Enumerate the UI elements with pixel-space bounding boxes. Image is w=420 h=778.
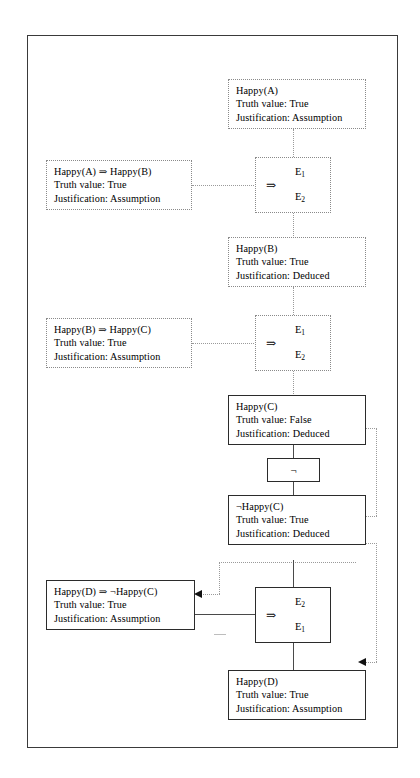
- node-implication-a-implies-b-text: Happy(A) ⇒ Happy(B) Truth value: True Ju…: [54, 165, 160, 205]
- rule-box-modus-ponens-1[interactable]: ⇒ E1 E2: [255, 157, 331, 213]
- connector-implication-bc-to-mp2: [192, 343, 256, 344]
- node-implication-b-implies-c-justification: Justification: Assumption: [54, 350, 160, 363]
- rule-box-modus-ponens-1-top-slot: E1: [256, 166, 330, 179]
- node-implication-a-implies-b-justification: Justification: Assumption: [54, 192, 160, 205]
- connector-implication-ab-to-mp1: [192, 185, 256, 186]
- rule-box-modus-tollens-top-slot: E2: [256, 596, 330, 609]
- rule-box-modus-ponens-2-top-slot: E1: [256, 324, 330, 337]
- node-happy-d-text: Happy(D) Truth value: True Justification…: [236, 675, 342, 715]
- node-implication-b-implies-c-text: Happy(B) ⇒ Happy(C) Truth value: True Ju…: [54, 323, 160, 363]
- node-happy-a-truth-value: Truth value: True: [236, 97, 342, 110]
- implication-operator-icon: ⇒: [266, 609, 276, 621]
- node-happy-a-text: Happy(A) Truth value: True Justification…: [236, 84, 342, 124]
- connector-right-rail-to-not-happy-c: [366, 516, 377, 517]
- node-happy-b-text: Happy(B) Truth value: True Justification…: [236, 242, 330, 282]
- connector-happy-a-to-mp1: [293, 129, 294, 157]
- node-implication-d-implies-not-c-text: Happy(D) ⇒ ¬Happy(C) Truth value: True J…: [54, 585, 160, 625]
- connector-right-rail-lower: [376, 543, 377, 662]
- connector-negation-to-not-happy-c: [293, 482, 294, 495]
- rule-box-modus-ponens-1-bottom-slot: E2: [256, 191, 330, 204]
- node-implication-d-implies-not-c-truth-value: Truth value: True: [54, 598, 160, 611]
- arrowhead-into-happy-d: [358, 658, 366, 666]
- node-implication-d-implies-not-c[interactable]: Happy(D) ⇒ ¬Happy(C) Truth value: True J…: [46, 580, 195, 630]
- node-not-happy-c-proposition: ¬Happy(C): [236, 500, 330, 513]
- node-happy-d-truth-value: Truth value: True: [236, 688, 342, 701]
- implication-operator-icon: ⇒: [266, 179, 276, 191]
- connector-happy-c-to-negation: [293, 445, 294, 458]
- node-implication-b-implies-c[interactable]: Happy(B) ⇒ Happy(C) Truth value: True Ju…: [46, 318, 192, 368]
- connector-modus-tollens-to-happy-d: [293, 643, 294, 670]
- node-not-happy-c[interactable]: ¬Happy(C) Truth value: True Justificatio…: [228, 495, 366, 545]
- connector-to-implication-dnc-vertical: [219, 562, 220, 594]
- node-happy-c-justification: Justification: Deduced: [236, 427, 330, 440]
- connector-right-rail-to-happy-d: [366, 662, 377, 663]
- node-happy-d[interactable]: Happy(D) Truth value: True Justification…: [228, 670, 366, 720]
- connector-tick-mark: [214, 634, 226, 635]
- node-happy-d-justification: Justification: Assumption: [236, 702, 342, 715]
- node-happy-b-justification: Justification: Deduced: [236, 269, 330, 282]
- connector-right-rail-upper: [376, 428, 377, 516]
- negation-operator-icon: ¬: [290, 464, 296, 476]
- node-not-happy-c-truth-value: Truth value: True: [236, 513, 330, 526]
- rule-box-modus-tollens-bottom-slot: E1: [256, 621, 330, 634]
- connector-happy-b-to-mp2: [293, 287, 294, 315]
- node-happy-d-proposition: Happy(D): [236, 675, 342, 688]
- node-happy-a[interactable]: Happy(A) Truth value: True Justification…: [228, 79, 366, 129]
- rule-box-modus-ponens-2[interactable]: ⇒ E1 E2: [255, 315, 331, 371]
- node-not-happy-c-text: ¬Happy(C) Truth value: True Justificatio…: [236, 500, 330, 540]
- node-implication-a-implies-b-truth-value: Truth value: True: [54, 178, 160, 191]
- node-happy-c-text: Happy(C) Truth value: False Justificatio…: [236, 400, 330, 440]
- node-happy-a-proposition: Happy(A): [236, 84, 342, 97]
- node-happy-a-justification: Justification: Assumption: [236, 111, 342, 124]
- node-not-happy-c-justification: Justification: Deduced: [236, 527, 330, 540]
- node-happy-c-truth-value: Truth value: False: [236, 413, 330, 426]
- implication-operator-icon: ⇒: [266, 337, 276, 349]
- node-happy-c[interactable]: Happy(C) Truth value: False Justificatio…: [228, 395, 366, 445]
- rule-box-negation[interactable]: ¬: [267, 458, 320, 482]
- connector-not-happy-c-bottom-rail: [219, 562, 356, 563]
- connector-to-implication-dnc-horizontal: [203, 594, 220, 595]
- node-happy-c-proposition: Happy(C): [236, 400, 330, 413]
- node-implication-b-implies-c-proposition: Happy(B) ⇒ Happy(C): [54, 323, 160, 336]
- node-implication-b-implies-c-truth-value: Truth value: True: [54, 336, 160, 349]
- node-implication-a-implies-b[interactable]: Happy(A) ⇒ Happy(B) Truth value: True Ju…: [46, 160, 192, 210]
- node-happy-b-truth-value: Truth value: True: [236, 255, 330, 268]
- node-happy-b[interactable]: Happy(B) Truth value: True Justification…: [228, 237, 366, 287]
- diagram-canvas: Happy(A) Truth value: True Justification…: [0, 0, 420, 778]
- diagram-frame: Happy(A) Truth value: True Justification…: [27, 35, 398, 748]
- arrowhead-into-implication-dnc: [194, 590, 202, 598]
- node-implication-a-implies-b-proposition: Happy(A) ⇒ Happy(B): [54, 165, 160, 178]
- rule-box-modus-tollens[interactable]: ⇒ E2 E1: [255, 587, 331, 643]
- connector-not-happy-c-to-modus-tollens: [293, 560, 294, 587]
- rule-box-modus-ponens-2-bottom-slot: E2: [256, 349, 330, 362]
- node-implication-d-implies-not-c-justification: Justification: Assumption: [54, 612, 160, 625]
- node-implication-d-implies-not-c-proposition: Happy(D) ⇒ ¬Happy(C): [54, 585, 160, 598]
- node-happy-b-proposition: Happy(B): [236, 242, 330, 255]
